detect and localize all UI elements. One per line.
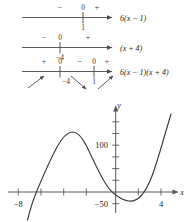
sign-label-positive: + <box>95 2 100 12</box>
sign-label-negative: − <box>42 32 47 42</box>
expression-label-line-1: 6(x − 1) <box>120 14 147 23</box>
zero-label-above-1: 0 <box>58 57 62 66</box>
y-axis-label: y <box>116 101 121 110</box>
root-label-below-1: −4 <box>62 77 70 86</box>
sign-label-negative: − <box>58 2 63 12</box>
x-tick-label-4: 4 <box>159 199 164 209</box>
sign-line-3: + − + 0 0 −4 1 6(x − 1)(x + 4) <box>22 56 169 89</box>
root-label-below-2: 1 <box>92 77 96 86</box>
zero-label-above: 0 <box>58 33 62 42</box>
expression-label-line-3: 6(x − 1)(x + 4) <box>120 68 169 77</box>
sign-label-positive-right: + <box>105 56 110 66</box>
y-tick-label-100: 100 <box>95 140 108 150</box>
root-label-below: 1 <box>81 23 85 32</box>
y-tick-label-minus-50: −50 <box>95 199 108 209</box>
x-tick-label-minus-8: −8 <box>14 199 23 209</box>
trend-arrow-down-middle <box>71 76 86 89</box>
sign-label-positive-left: + <box>42 56 47 66</box>
figure-svg: − + 0 1 6(x − 1) − + 0 −4 (x + 4) + − + … <box>0 0 189 222</box>
trend-arrow-up-left <box>28 76 44 88</box>
trend-arrow-up-right <box>98 76 113 89</box>
x-axis-label: x <box>179 188 184 197</box>
sign-line-1: − + 0 1 6(x − 1) <box>22 2 147 32</box>
zero-label-above: 0 <box>81 3 85 12</box>
sign-label-positive: + <box>86 32 91 42</box>
expression-label-line-2: (x + 4) <box>120 44 143 53</box>
sign-chart-and-graph-figure: − + 0 1 6(x − 1) − + 0 −4 (x + 4) + − + … <box>0 0 189 222</box>
zero-label-above-2: 0 <box>92 57 96 66</box>
sign-label-negative-middle: − <box>78 56 83 66</box>
cubic-graph: −8 4 100 −50 x y <box>8 101 184 220</box>
